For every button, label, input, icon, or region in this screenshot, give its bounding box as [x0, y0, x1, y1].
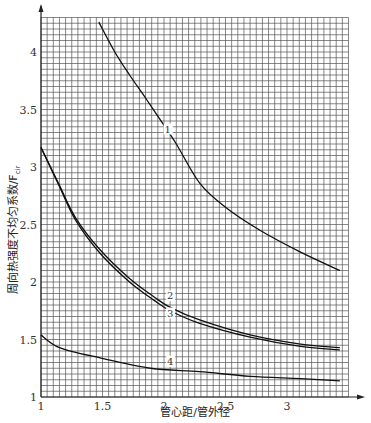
y-tick-label: 3.5 [20, 104, 38, 117]
y-axis-arrow-icon [39, 4, 44, 12]
y-tick-label: 2.5 [20, 219, 38, 232]
y-tick-label: 4 [30, 46, 37, 59]
x-tick-label: 1.5 [94, 400, 112, 413]
x-tick-label: 1 [38, 400, 45, 413]
chart: 1234 11.522.5311.522.533.54 管心距/管外径 周向热强… [0, 0, 371, 423]
curve-label-3: 3 [167, 308, 173, 319]
curve-labels: 1234 [164, 124, 175, 367]
x-tick-label: 3 [284, 400, 291, 413]
y-tick-label: 2 [30, 276, 37, 289]
y-axis-title-subscript: cir [14, 166, 22, 175]
x-axis-arrow-icon [357, 395, 365, 400]
curve-label-4: 4 [167, 356, 173, 367]
y-tick-label: 3 [30, 161, 37, 174]
grid [41, 18, 349, 398]
y-axis-title-main: 周向热强度不均匀系数/F [6, 174, 20, 294]
y-tick-label: 1 [30, 391, 37, 404]
y-axis-title: 周向热强度不均匀系数/Fcir [6, 166, 22, 295]
y-tick-label: 1.5 [20, 334, 38, 347]
x-axis-title: 管心距/管外径 [160, 405, 230, 419]
curve-label-2: 2 [167, 290, 173, 301]
curve-label-1: 1 [165, 124, 171, 135]
